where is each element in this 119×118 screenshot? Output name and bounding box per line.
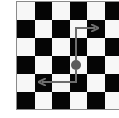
arrow-up-right-icon [76,28,95,60]
arrow-down-left-icon [42,70,76,82]
move-overlay [0,0,119,118]
circle-piece-icon [71,60,81,70]
